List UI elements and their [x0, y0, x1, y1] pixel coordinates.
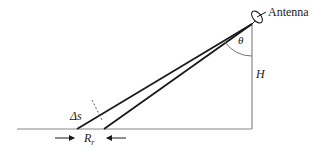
height-label: H — [255, 67, 266, 81]
range-label-subscript: r — [91, 138, 95, 147]
diagram-svg: Antenna θ H Δs Rr — [0, 0, 311, 150]
theta-label: θ — [238, 34, 244, 46]
antenna-icon — [249, 9, 266, 25]
ray-far — [104, 24, 252, 129]
delta-s-label: Δs — [69, 109, 82, 123]
radar-geometry-diagram: Antenna θ H Δs Rr — [0, 0, 311, 150]
antenna-label: Antenna — [268, 5, 309, 19]
range-label: Rr — [83, 131, 95, 147]
ray-near — [77, 24, 252, 129]
